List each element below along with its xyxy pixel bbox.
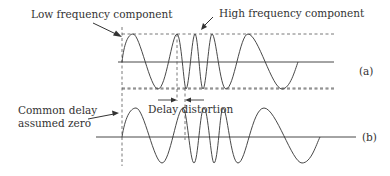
panel-b-waveform	[122, 108, 320, 163]
common-delay-label-line1: Common delay	[18, 104, 97, 116]
low-freq-pointer-shaft	[93, 23, 118, 35]
common-delay-pointer-head	[112, 111, 119, 117]
common-delay-label-line2: assumed zero	[18, 117, 91, 129]
panel-a-waveform	[122, 34, 298, 89]
panel-a-label: (a)	[359, 65, 373, 77]
delay-arrow-right-head	[185, 98, 191, 103]
delay-distortion-label: Delay distortion	[148, 103, 233, 115]
low-frequency-label: Low frequency component	[31, 8, 173, 20]
high-frequency-label: High frequency component	[219, 7, 364, 19]
panel-b-label: (b)	[362, 131, 377, 143]
delay-distortion-diagram	[0, 0, 390, 176]
low-freq-pointer-head	[113, 31, 122, 38]
delay-arrow-left-head	[171, 98, 177, 103]
